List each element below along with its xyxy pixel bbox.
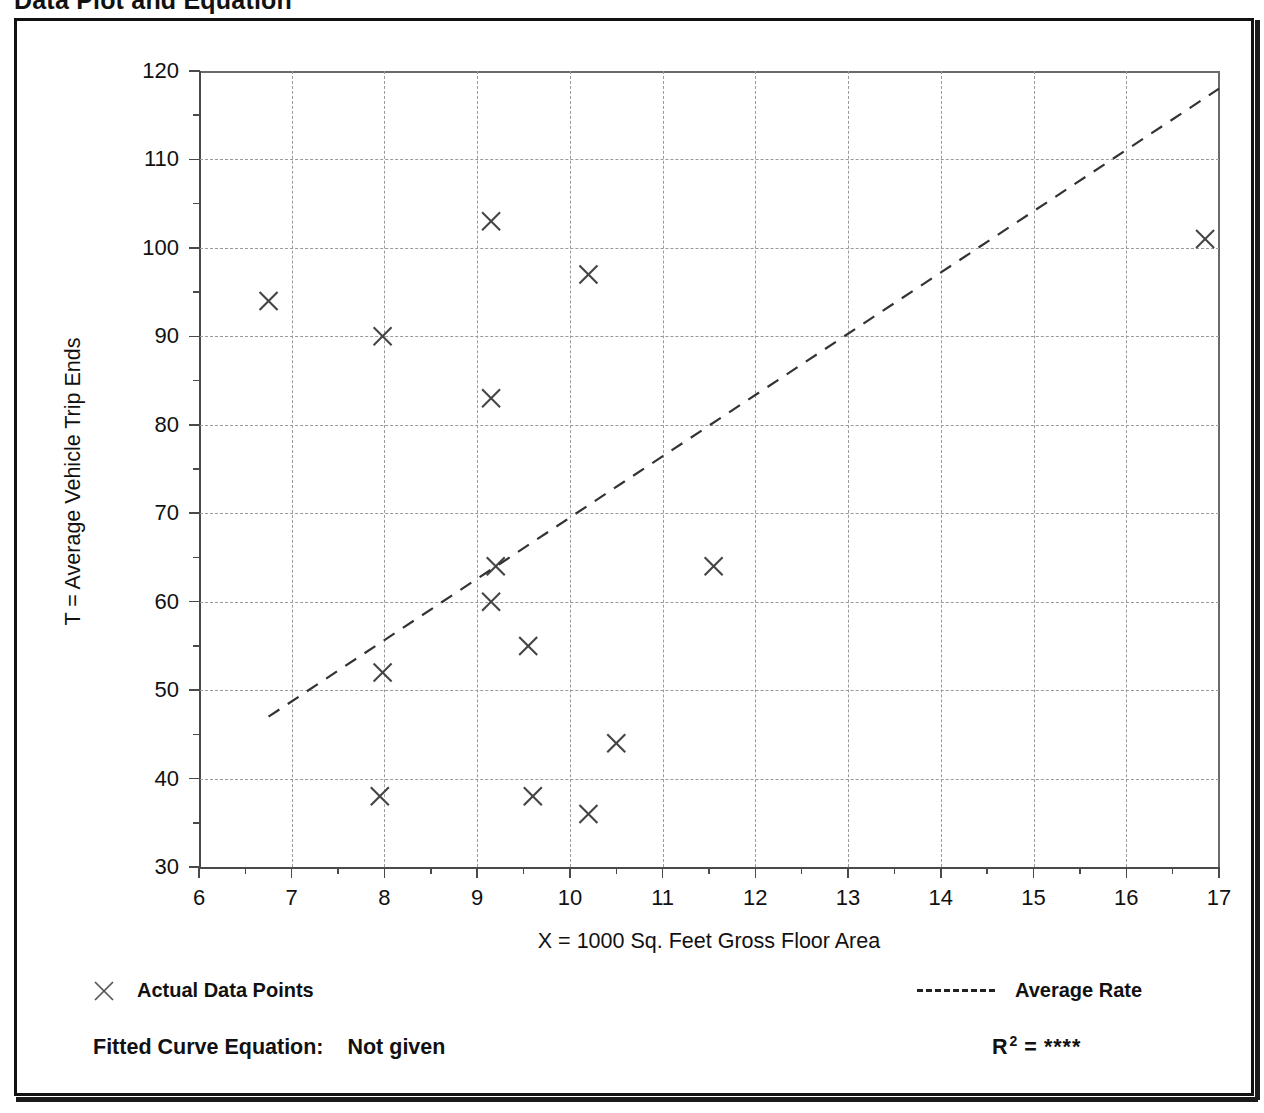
x-tick-label: 13 (818, 887, 878, 909)
data-point-marker (579, 265, 597, 283)
gridline-horizontal (200, 248, 1219, 249)
gridline-vertical (848, 71, 849, 867)
card-shadow-right (1255, 20, 1260, 1100)
x-tick-major (662, 867, 664, 878)
x-axis-title: X = 1000 Sq. Feet Gross Floor Area (199, 929, 1219, 954)
data-point-marker (519, 637, 537, 655)
y-tick-minor (193, 114, 200, 116)
equation-row: Fitted Curve Equation: Not given R2=**** (17, 1035, 1257, 1069)
y-tick-major (189, 70, 200, 72)
y-tick-major (189, 336, 200, 338)
gridline-vertical (1034, 71, 1035, 867)
data-point-marker (260, 292, 278, 310)
x-tick-label: 7 (262, 887, 322, 909)
trend-line (269, 89, 1219, 717)
x-tick-label: 17 (1189, 887, 1249, 909)
data-point-marker (1196, 230, 1214, 248)
gridline-horizontal (200, 690, 1219, 691)
x-tick-minor (1172, 867, 1174, 874)
gridline-vertical (570, 71, 571, 867)
y-tick-major (189, 778, 200, 780)
x-tick-minor (337, 867, 339, 874)
x-tick-major (569, 867, 571, 878)
data-point-marker (371, 787, 389, 805)
y-tick-major (189, 159, 200, 161)
y-tick-label: 120 (89, 60, 179, 82)
equation-value: Not given (347, 1035, 445, 1059)
gridline-horizontal (200, 336, 1219, 337)
y-tick-minor (193, 734, 200, 736)
legend-entry-points: Actual Data Points (93, 979, 314, 1002)
y-tick-major (189, 512, 200, 514)
x-tick-major (198, 867, 200, 878)
y-tick-major (189, 601, 200, 603)
x-tick-major (291, 867, 293, 878)
y-axis-title: T = Average Vehicle Trip Ends (61, 162, 86, 802)
legend-points-label: Actual Data Points (137, 979, 314, 1002)
data-point-marker (579, 805, 597, 823)
y-tick-minor (193, 468, 200, 470)
data-point-marker (487, 557, 505, 575)
r-squared-value: **** (1044, 1035, 1081, 1060)
x-tick-label: 11 (633, 887, 693, 909)
x-tick-label: 15 (1004, 887, 1064, 909)
x-tick-minor (1079, 867, 1081, 874)
legend-entry-line: Average Rate (917, 979, 1142, 1002)
equation-label: Fitted Curve Equation: (93, 1035, 324, 1059)
x-tick-label: 16 (1096, 887, 1156, 909)
gridline-vertical (477, 71, 478, 867)
x-tick-label: 6 (169, 887, 229, 909)
x-tick-minor (801, 867, 803, 874)
y-tick-major (189, 247, 200, 249)
gridline-vertical (1126, 71, 1127, 867)
data-point-marker (482, 212, 500, 230)
fitted-curve-equation: Fitted Curve Equation: Not given (93, 1035, 445, 1060)
y-tick-minor (193, 645, 200, 647)
y-tick-label: 40 (89, 768, 179, 790)
plot-area: 3040506070809010011012067891011121314151… (17, 21, 1257, 1099)
x-tick-minor (986, 867, 988, 874)
y-tick-label: 60 (89, 591, 179, 613)
r-squared-exponent: 2 (1010, 1033, 1018, 1049)
card-shadow-bottom (16, 1097, 1258, 1102)
x-tick-major (847, 867, 849, 878)
legend-line-label: Average Rate (1015, 979, 1142, 1002)
data-point-marker (524, 787, 542, 805)
gridline-horizontal (200, 602, 1219, 603)
scatter-series (260, 212, 1215, 823)
x-tick-major (1218, 867, 1220, 878)
gridline-horizontal (200, 513, 1219, 514)
data-point-marker (607, 734, 625, 752)
gridline-vertical (384, 71, 385, 867)
gridline-vertical (292, 71, 293, 867)
gridline-vertical (663, 71, 664, 867)
x-tick-label: 14 (911, 887, 971, 909)
x-tick-minor (430, 867, 432, 874)
x-tick-major (384, 867, 386, 878)
data-point-marker (374, 663, 392, 681)
x-tick-major (940, 867, 942, 878)
y-tick-minor (193, 380, 200, 382)
gridline-horizontal (200, 779, 1219, 780)
plot-top-border (199, 71, 1219, 73)
x-tick-minor (894, 867, 896, 874)
legend-row: Actual Data Points Average Rate (17, 979, 1257, 1013)
y-tick-label: 50 (89, 679, 179, 701)
plot-right-border (1218, 71, 1220, 868)
page-root: Data Plot and Equation 30405060708090100… (0, 0, 1264, 1113)
y-tick-minor (193, 203, 200, 205)
x-tick-label: 10 (540, 887, 600, 909)
dashed-line-icon (917, 989, 995, 992)
y-tick-label: 100 (89, 237, 179, 259)
y-tick-label: 110 (89, 148, 179, 170)
x-tick-major (1126, 867, 1128, 878)
x-tick-major (755, 867, 757, 878)
x-tick-minor (523, 867, 525, 874)
r-squared-block: R2=**** (992, 1035, 1081, 1060)
data-point-marker (705, 557, 723, 575)
data-point-marker (482, 389, 500, 407)
y-tick-minor (193, 557, 200, 559)
x-tick-minor (245, 867, 247, 874)
chart-card: 3040506070809010011012067891011121314151… (14, 18, 1254, 1096)
x-tick-major (1033, 867, 1035, 878)
